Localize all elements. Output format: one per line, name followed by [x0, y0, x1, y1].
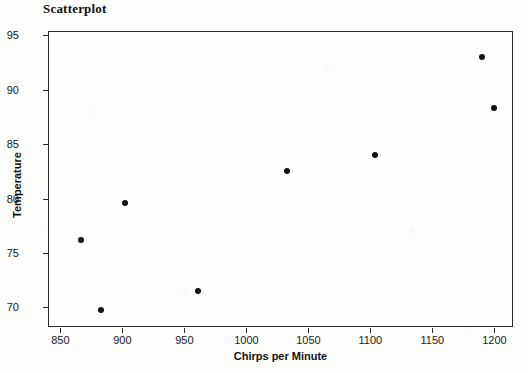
x-tick-label: 1150 — [421, 334, 445, 346]
y-tick-mark — [43, 35, 48, 36]
x-tick-label: 1050 — [296, 334, 320, 346]
x-tick-mark — [370, 328, 371, 333]
data-point — [98, 307, 104, 313]
y-axis-title: Temperature — [11, 135, 23, 235]
y-tick-mark — [43, 144, 48, 145]
x-tick-mark — [184, 328, 185, 333]
chart-title: Scatterplot — [43, 1, 107, 17]
x-tick-mark — [122, 328, 123, 333]
x-tick-label: 900 — [113, 334, 131, 346]
x-tick-label: 850 — [51, 334, 69, 346]
y-tick-mark — [43, 199, 48, 200]
y-tick-mark — [43, 307, 48, 308]
data-point — [122, 200, 128, 206]
x-tick-label: 1000 — [234, 334, 258, 346]
x-tick-label: 1100 — [359, 334, 383, 346]
y-tick-mark — [43, 253, 48, 254]
x-tick-mark — [432, 328, 433, 333]
x-axis-title: Chirps per Minute — [48, 350, 513, 362]
x-tick-mark — [60, 328, 61, 333]
x-tick-label: 1200 — [482, 334, 506, 346]
y-tick-label: 75 — [7, 247, 19, 259]
x-tick-mark — [308, 328, 309, 333]
y-tick-label: 90 — [7, 84, 19, 96]
y-tick-label: 95 — [7, 29, 19, 41]
plot-area — [48, 31, 513, 327]
y-tick-label: 70 — [7, 301, 19, 313]
y-tick-mark — [43, 90, 48, 91]
x-tick-mark — [494, 328, 495, 333]
x-tick-label: 950 — [175, 334, 193, 346]
x-tick-mark — [246, 328, 247, 333]
